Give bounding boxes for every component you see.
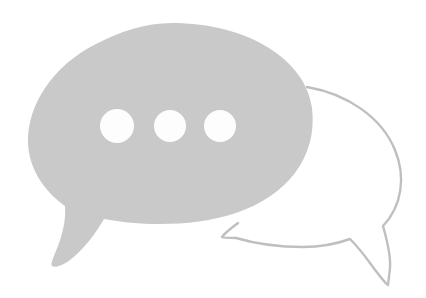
filled-speech-bubble-group	[28, 23, 313, 267]
typing-dot-1	[100, 109, 134, 143]
illustration-canvas	[0, 0, 426, 298]
filled-speech-bubble-icon	[28, 23, 313, 267]
typing-dot-2	[154, 110, 186, 142]
typing-dot-3	[204, 110, 236, 142]
speech-bubbles-illustration	[0, 0, 426, 298]
